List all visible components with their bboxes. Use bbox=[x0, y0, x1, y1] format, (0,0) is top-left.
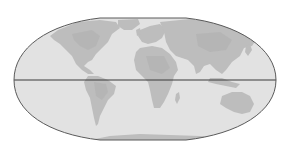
world-map-svg bbox=[0, 0, 296, 149]
island-new-zealand bbox=[262, 110, 266, 120]
world-map bbox=[0, 0, 296, 149]
